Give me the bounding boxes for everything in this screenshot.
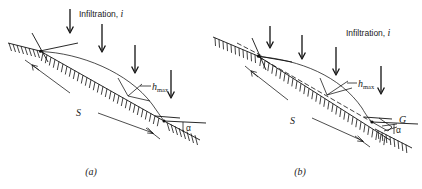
infiltration-label-a: Infiltration, i (79, 8, 124, 19)
ground-hatching (9, 43, 40, 58)
toe-detail-a (155, 116, 206, 145)
infiltration-arrow (267, 26, 274, 48)
drainage-layer-base-b (258, 56, 390, 145)
toe-ground-hatching (378, 131, 407, 154)
infiltration-arrow (99, 24, 106, 52)
drainage-layer-hatching (41, 53, 159, 127)
panel-caption-a: (a) (85, 166, 97, 178)
drainage-layer-base-a (40, 51, 164, 126)
toe-ground-hatching (167, 123, 198, 145)
diagram-canvas: Infiltration, i (0, 0, 422, 189)
hmax-label-b: hmax (358, 78, 375, 90)
slope-angle-label-b: α (396, 125, 401, 135)
internal-flow-dashed-line-b (259, 57, 372, 122)
infiltration-arrow (299, 35, 306, 59)
panel-b: Infiltration, i (213, 26, 418, 178)
slope-length-dimension-b (245, 66, 370, 147)
toe-drain-label-b: G (399, 114, 406, 125)
infiltration-arrow (67, 9, 74, 33)
drainage-layer-hatching (260, 58, 385, 145)
infiltration-arrow (168, 70, 175, 98)
slope-angle-label-a: α (186, 123, 191, 133)
slope-length-dimension-a (25, 60, 160, 139)
crest-detail-a (32, 33, 78, 62)
infiltration-label-b: Infiltration, i (346, 27, 391, 38)
infiltration-arrows-a (67, 9, 175, 98)
slope-length-label-a: S (76, 107, 81, 118)
infiltration-arrow (132, 45, 139, 73)
infiltration-arrow (378, 66, 385, 94)
hmax-label-a: hmax (152, 81, 169, 93)
ground-hatching (215, 38, 256, 63)
panel-a: Infiltration, i (8, 8, 206, 178)
panel-caption-b: (b) (294, 166, 306, 178)
hmax-measurement-b (320, 78, 357, 95)
upper-ground-surface-a (8, 43, 40, 58)
slope-length-label-b: S (290, 115, 295, 126)
figure-container: Infiltration, i (0, 0, 422, 189)
infiltration-arrow (333, 47, 340, 75)
